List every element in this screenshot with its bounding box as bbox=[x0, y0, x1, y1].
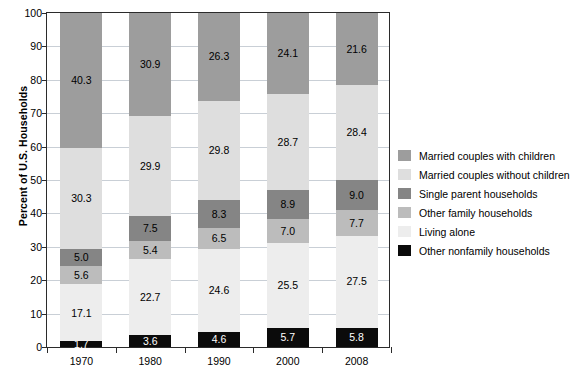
x-tick-label: 2000 bbox=[276, 355, 299, 367]
x-tick-label: 1970 bbox=[70, 355, 93, 367]
legend-label: Married couples without children bbox=[419, 169, 570, 181]
bar-segment[interactable]: 7.5 bbox=[129, 216, 171, 241]
bar-segment-value: 21.6 bbox=[346, 44, 366, 55]
y-axis-title: Percent of U.S. Households bbox=[17, 41, 29, 271]
x-tick-label: 2008 bbox=[345, 355, 368, 367]
bar-segment[interactable]: 5.0 bbox=[60, 249, 102, 266]
legend-swatch bbox=[398, 207, 411, 218]
bar-segment[interactable]: 24.6 bbox=[198, 249, 240, 331]
y-tick-label: 90 bbox=[30, 40, 42, 52]
legend-item[interactable]: Married couples without children bbox=[398, 165, 564, 184]
x-tick-mark bbox=[47, 347, 48, 353]
y-tick-label: 50 bbox=[30, 174, 42, 186]
bar-segment-value: 4.6 bbox=[212, 334, 227, 345]
legend-label: Single parent households bbox=[419, 188, 538, 200]
bar-segment-value: 5.8 bbox=[349, 332, 364, 343]
legend-label: Married couples with children bbox=[419, 150, 555, 162]
legend-swatch bbox=[398, 188, 411, 199]
legend-label: Living alone bbox=[419, 226, 475, 238]
bar-segment-value: 5.4 bbox=[143, 245, 158, 256]
bar-segment[interactable]: 29.8 bbox=[198, 101, 240, 201]
bar-segment-value: 30.3 bbox=[71, 193, 91, 204]
bar-segment[interactable]: 7.0 bbox=[267, 219, 309, 242]
y-tick-label: 10 bbox=[30, 308, 42, 320]
bar-segment[interactable]: 8.9 bbox=[267, 190, 309, 220]
stacked-bar[interactable]: 5.725.57.08.928.724.1 bbox=[267, 13, 309, 347]
stacked-bar[interactable]: 4.624.66.58.329.826.3 bbox=[198, 13, 240, 347]
bar-segment[interactable]: 9.0 bbox=[336, 180, 378, 210]
bars-layer: 1.717.15.65.030.340.33.622.75.47.529.930… bbox=[47, 13, 389, 347]
bar-segment[interactable]: 3.6 bbox=[129, 335, 171, 347]
bar-segment[interactable]: 26.3 bbox=[198, 13, 240, 101]
bar-segment[interactable]: 29.9 bbox=[129, 116, 171, 216]
bar-segment[interactable]: 25.5 bbox=[267, 243, 309, 328]
bar-segment[interactable]: 5.7 bbox=[267, 328, 309, 347]
bar-segment[interactable]: 17.1 bbox=[60, 284, 102, 341]
legend-item[interactable]: Living alone bbox=[398, 222, 564, 241]
bar-segment-value: 22.7 bbox=[140, 292, 160, 303]
bar-segment-value: 40.3 bbox=[71, 75, 91, 86]
bar-segment[interactable]: 1.7 bbox=[60, 341, 102, 347]
bar-segment-value: 7.5 bbox=[143, 223, 158, 234]
y-tick-label: 100 bbox=[24, 7, 42, 19]
bar-segment-value: 17.1 bbox=[71, 308, 91, 319]
bar-segment-value: 5.6 bbox=[74, 270, 89, 281]
legend-swatch bbox=[398, 150, 411, 161]
legend-item[interactable]: Other nonfamily households bbox=[398, 241, 564, 260]
bar-segment-value: 30.9 bbox=[140, 59, 160, 70]
bar-segment-value: 9.0 bbox=[349, 190, 364, 201]
x-tick-mark bbox=[391, 347, 392, 353]
x-tick-mark bbox=[253, 347, 254, 353]
bar-segment[interactable]: 4.6 bbox=[198, 332, 240, 347]
bar-segment[interactable]: 6.5 bbox=[198, 228, 240, 250]
legend-swatch bbox=[398, 169, 411, 180]
bar-segment-value: 5.0 bbox=[74, 252, 89, 263]
bar-segment[interactable]: 5.6 bbox=[60, 266, 102, 285]
bar-segment-value: 5.7 bbox=[280, 332, 295, 343]
bar-segment-value: 24.1 bbox=[278, 48, 298, 59]
y-tick-label: 60 bbox=[30, 141, 42, 153]
bar-segment-value: 24.6 bbox=[209, 285, 229, 296]
bar-segment-value: 8.3 bbox=[212, 209, 227, 220]
y-tick-label: 80 bbox=[30, 74, 42, 86]
legend-item[interactable]: Married couples with children bbox=[398, 146, 564, 165]
bar-segment-value: 26.3 bbox=[209, 51, 229, 62]
bar-segment[interactable]: 30.9 bbox=[129, 13, 171, 116]
bar-segment-value: 3.6 bbox=[143, 336, 158, 347]
bar-segment[interactable]: 28.7 bbox=[267, 94, 309, 190]
legend-item[interactable]: Other family households bbox=[398, 203, 564, 222]
bar-segment[interactable]: 7.7 bbox=[336, 210, 378, 236]
y-tick-label: 70 bbox=[30, 107, 42, 119]
x-tick-label: 1980 bbox=[139, 355, 162, 367]
x-tick-mark bbox=[185, 347, 186, 353]
bar-segment-value: 7.7 bbox=[349, 218, 364, 229]
x-tick-label: 1990 bbox=[207, 355, 230, 367]
bar-segment[interactable]: 27.5 bbox=[336, 236, 378, 328]
bar-segment[interactable]: 30.3 bbox=[60, 148, 102, 249]
bar-segment-value: 28.4 bbox=[346, 127, 366, 138]
stacked-bar[interactable]: 3.622.75.47.529.930.9 bbox=[129, 13, 171, 347]
bar-segment-value: 8.9 bbox=[280, 199, 295, 210]
legend-item[interactable]: Single parent households bbox=[398, 184, 564, 203]
bar-segment[interactable]: 5.8 bbox=[336, 328, 378, 347]
legend: Married couples with childrenMarried cou… bbox=[398, 146, 564, 260]
bar-segment-value: 29.9 bbox=[140, 161, 160, 172]
bar-segment[interactable]: 5.4 bbox=[129, 241, 171, 259]
x-tick-mark bbox=[322, 347, 323, 353]
stacked-bar[interactable]: 1.717.15.65.030.340.3 bbox=[60, 13, 102, 347]
legend-swatch bbox=[398, 245, 411, 256]
legend-swatch bbox=[398, 226, 411, 237]
bar-segment-value: 6.5 bbox=[212, 233, 227, 244]
bar-segment[interactable]: 21.6 bbox=[336, 13, 378, 85]
bar-segment[interactable]: 24.1 bbox=[267, 13, 309, 93]
stacked-bar[interactable]: 5.827.57.79.028.421.6 bbox=[336, 13, 378, 347]
y-tick-label: 0 bbox=[36, 341, 42, 353]
bar-segment[interactable]: 40.3 bbox=[60, 13, 102, 148]
y-tick-label: 40 bbox=[30, 207, 42, 219]
bar-segment-value: 28.7 bbox=[278, 137, 298, 148]
bar-segment[interactable]: 22.7 bbox=[129, 259, 171, 335]
bar-segment[interactable]: 8.3 bbox=[198, 200, 240, 228]
bar-segment-value: 27.5 bbox=[346, 276, 366, 287]
bar-segment[interactable]: 28.4 bbox=[336, 85, 378, 180]
